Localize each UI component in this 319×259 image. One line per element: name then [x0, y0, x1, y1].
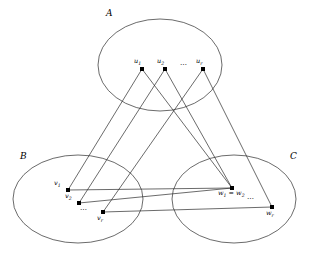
edge-ur-vr	[103, 69, 203, 212]
vertex-node-u1	[140, 67, 144, 71]
vertex-label-ur: ur	[196, 58, 202, 67]
edge-vr-wr	[103, 207, 272, 212]
vertex-label-u2: u2	[157, 58, 164, 67]
set-label-B: B	[20, 152, 27, 161]
set-ellipse-B	[13, 155, 143, 243]
vertex-label-w1-equals-w2: w1 = w2	[218, 190, 245, 199]
edge-u2-v2	[79, 69, 165, 203]
set-ellipse-C	[172, 155, 296, 243]
vertex-node-v2	[77, 201, 81, 205]
ellipsis-A: ⋯	[180, 62, 188, 69]
ellipsis-B: ⋯	[80, 207, 88, 214]
vertex-node-vr	[101, 210, 105, 214]
edge-u2-w12	[165, 69, 232, 188]
diagram-canvas	[0, 0, 319, 259]
set-diagram-figure: ABCu1u2urv1v2vrw1 = w2wr⋯⋯⋯	[0, 0, 319, 259]
vertex-label-v2: v2	[65, 193, 72, 202]
edge-v2-w12	[79, 188, 232, 203]
edge-v1-w12	[68, 188, 232, 190]
vertex-node-ur	[201, 67, 205, 71]
vertex-label-vr: vr	[97, 215, 103, 224]
vertex-node-u2	[163, 67, 167, 71]
set-ellipses-group	[13, 19, 296, 243]
ellipsis-C: ⋯	[247, 196, 255, 203]
vertex-label-wr: wr	[266, 210, 274, 219]
set-label-C: C	[290, 152, 297, 161]
vertex-label-u1: u1	[134, 58, 141, 67]
edge-ur-wr	[203, 69, 272, 207]
vertex-label-v1: v1	[54, 180, 61, 189]
set-label-A: A	[106, 9, 113, 18]
